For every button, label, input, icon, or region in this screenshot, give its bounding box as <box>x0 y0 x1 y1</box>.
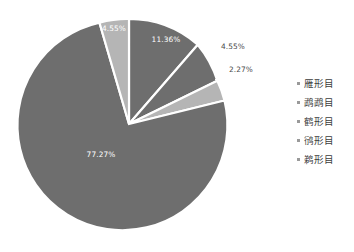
legend-item-0[interactable]: 雁形目 <box>297 74 354 93</box>
legend-item-label: 鹤形目 <box>304 112 335 131</box>
pie-slices <box>17 19 227 230</box>
slice-value-label-4: 77.27% <box>87 150 116 159</box>
slice-value-label-3: 2.27% <box>229 65 253 74</box>
legend-marker-icon <box>297 120 300 123</box>
legend-marker-icon <box>297 158 300 161</box>
slice-value-label-2: 4.55% <box>221 42 245 51</box>
legend-item-label: 雁形目 <box>304 74 335 93</box>
legend-marker-icon <box>297 101 300 104</box>
slice-value-label-1: 11.36% <box>152 35 181 44</box>
legend-item-label: 鹉鹉目 <box>304 93 335 112</box>
chart-legend: 雁形目 鹉鹉目 鹤形目 鸻形目 鹈形目 <box>297 74 354 169</box>
legend-item-label: 鸻形目 <box>304 131 335 150</box>
legend-item-2[interactable]: 鹤形目 <box>297 112 354 131</box>
legend-item-4[interactable]: 鹈形目 <box>297 150 354 169</box>
legend-marker-icon <box>297 82 300 85</box>
legend-item-label: 鹈形目 <box>304 150 335 169</box>
legend-item-3[interactable]: 鸻形目 <box>297 131 354 150</box>
pie-chart-container: 11.36% 4.55% 2.27% 77.27% 4.55% 雁形目 鹉鹉目 … <box>0 0 354 252</box>
legend-marker-icon <box>297 139 300 142</box>
legend-item-1[interactable]: 鹉鹉目 <box>297 93 354 112</box>
slice-value-label-5: 4.55% <box>102 24 126 33</box>
